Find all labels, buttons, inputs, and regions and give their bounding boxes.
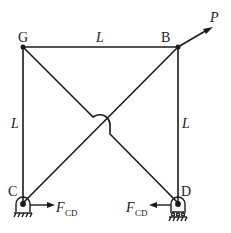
arrowhead-icon [149, 202, 157, 208]
joint-B [176, 45, 181, 50]
node-label-B: B [161, 30, 170, 45]
arrowhead-icon [203, 27, 213, 34]
load-arrow-P [178, 30, 207, 47]
node-label-G: G [18, 30, 28, 45]
arrowhead-icon [47, 202, 55, 208]
truss-diagram: G B C D L L L P F CD F CD [0, 0, 231, 233]
node-label-D: D [181, 184, 191, 199]
length-label-left: L [10, 116, 19, 131]
force-sub-C: CD [65, 208, 78, 218]
force-sub-D: CD [135, 208, 148, 218]
force-label-D: F [125, 200, 135, 215]
force-label-C: F [55, 200, 65, 215]
length-label-right: L [181, 116, 190, 131]
joint-G [21, 45, 26, 50]
length-label-top: L [95, 30, 104, 45]
node-label-C: C [8, 184, 17, 199]
load-label-P: P [209, 10, 219, 25]
